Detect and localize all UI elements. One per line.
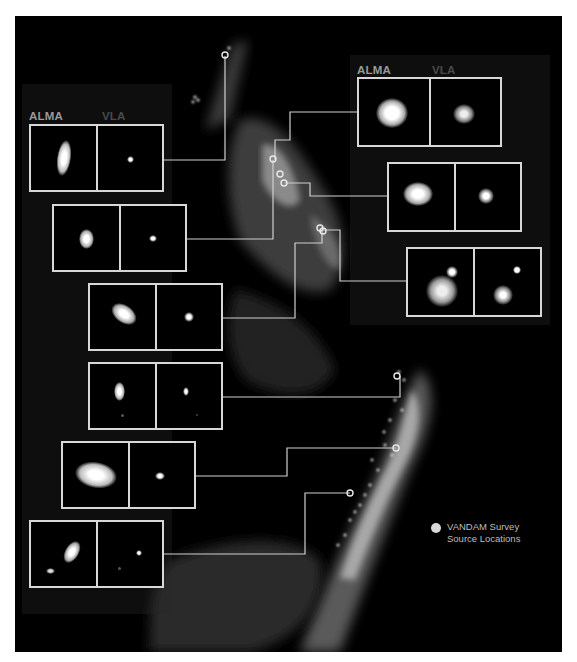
vla-image bbox=[128, 443, 195, 507]
panel-left-5 bbox=[61, 441, 196, 509]
vla-image bbox=[155, 364, 222, 428]
alma-image bbox=[90, 285, 155, 349]
panel-left-6 bbox=[29, 520, 164, 588]
vla-label-right: VLA bbox=[432, 64, 456, 76]
alma-image bbox=[408, 249, 473, 315]
vla-image bbox=[119, 206, 186, 270]
alma-image bbox=[63, 443, 128, 507]
vla-image bbox=[454, 164, 521, 230]
alma-image bbox=[359, 79, 429, 145]
panel-left-4 bbox=[88, 362, 223, 430]
legend-line-1: VANDAM Survey bbox=[447, 521, 520, 533]
panel-left-3 bbox=[88, 283, 223, 351]
legend-line-2: Source Locations bbox=[447, 533, 520, 545]
vla-image bbox=[473, 249, 540, 315]
vla-image bbox=[96, 522, 163, 586]
vla-image bbox=[155, 285, 222, 349]
alma-image bbox=[90, 364, 155, 428]
alma-image bbox=[31, 126, 96, 190]
vla-label-left: VLA bbox=[102, 110, 126, 122]
panel-right-1 bbox=[357, 77, 502, 147]
legend-label: VANDAM Survey Source Locations bbox=[447, 521, 520, 545]
source-location-icon bbox=[431, 523, 441, 533]
vla-image bbox=[429, 79, 501, 145]
alma-image bbox=[31, 522, 96, 586]
alma-label-left: ALMA bbox=[29, 110, 63, 122]
alma-image bbox=[389, 164, 454, 230]
panel-right-2 bbox=[387, 162, 522, 232]
panel-left-2 bbox=[52, 204, 187, 272]
panel-left-1 bbox=[29, 124, 164, 192]
vla-image bbox=[96, 126, 163, 190]
alma-image bbox=[54, 206, 119, 270]
panel-right-3 bbox=[406, 247, 542, 317]
legend: VANDAM Survey Source Locations bbox=[431, 521, 520, 545]
alma-label-right: ALMA bbox=[357, 64, 391, 76]
